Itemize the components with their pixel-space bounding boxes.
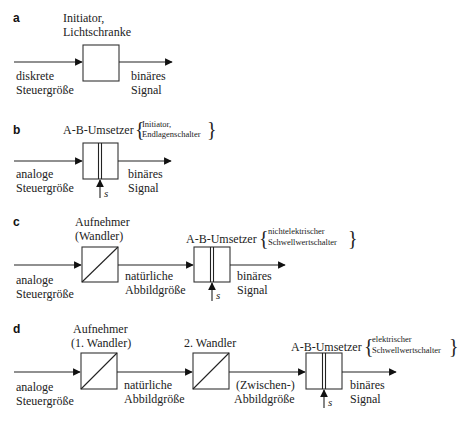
converter-label-d: A-B-Umsetzer [291, 340, 362, 354]
example-c-line1: nichtelektrischer [268, 226, 325, 236]
output-label-a-line2: Signal [131, 83, 162, 97]
panel-letter-d: d [13, 322, 20, 336]
output-label-a-line1: binäres [131, 69, 166, 83]
panel-c: c Aufnehmer (Wandler) A-B-Umsetzer { nic… [13, 215, 358, 301]
input-label-b-line1: analoge [16, 167, 53, 181]
panel-letter-a: a [13, 11, 20, 25]
input-label-b-line2: Steuergröße [16, 181, 74, 195]
input-label-c-line1: analoge [16, 273, 53, 287]
output-label-c-line1: binäres [237, 269, 272, 283]
sensor-label-d-line2: (1. Wandler) [71, 336, 131, 350]
output-label-b-line1: binäres [128, 167, 163, 181]
middle-label-c-line2: Abbildgröße [125, 283, 186, 297]
output-label-d-line2: Signal [350, 392, 381, 406]
input-label-d-line1: analoge [16, 380, 53, 394]
close-brace-c: } [348, 227, 358, 249]
close-brace-b: } [207, 118, 217, 140]
panel-b: b A-B-Umsetzer { Initiator, Endlagenscha… [13, 118, 217, 199]
close-brace-d: } [449, 335, 459, 357]
example-d-line2: Schwellwertschalter [372, 345, 441, 355]
second-converter-label-d: 2. Wandler [184, 336, 236, 350]
middle-label-d1-line1: natürliche [124, 378, 172, 392]
ab-converter-block-b [83, 143, 118, 179]
middle-label-c-line1: natürliche [125, 269, 173, 283]
panel-a: a Initiator, Lichtschranke diskrete Steu… [13, 11, 172, 97]
middle-label-d2-line2: Abbildgröße [234, 392, 295, 406]
block-label-a-line2: Lichtschranke [63, 25, 131, 39]
input-label-a-line1: diskrete [16, 69, 54, 83]
panel-letter-c: c [13, 215, 20, 229]
example-d-line1: elektrischer [372, 334, 412, 344]
output-label-c-line2: Signal [237, 283, 268, 297]
block-label-a-line1: Initiator, [63, 11, 104, 25]
input-label-a-line2: Steuergröße [16, 83, 74, 97]
input-label-d-line2: Steuergröße [16, 394, 74, 408]
middle-label-d1-line2: Abbildgröße [124, 392, 185, 406]
output-label-d-line1: binäres [350, 378, 385, 392]
sensor-label-c-line1: Aufnehmer [75, 215, 130, 229]
ab-converter-block-d [306, 353, 342, 389]
converter-label-c: A-B-Umsetzer [186, 232, 257, 246]
sensor-label-d-line1: Aufnehmer [73, 322, 128, 336]
initiator-block-a [83, 45, 119, 81]
example-b-line1: Initiator, [142, 119, 171, 129]
threshold-s-d: s [328, 396, 332, 408]
panel-d: d Aufnehmer (1. Wandler) 2. Wandler A-B-… [13, 322, 459, 408]
example-c-line2: Schwellwertschalter [268, 237, 337, 247]
panel-letter-b: b [13, 123, 20, 137]
converter-label-b: A-B-Umsetzer [63, 123, 134, 137]
sensor-label-c-line2: (Wandler) [75, 229, 123, 243]
input-label-c-line2: Steuergröße [16, 287, 74, 301]
example-b-line2: Endlagenschalter [142, 129, 201, 139]
signal-conversion-diagram: a Initiator, Lichtschranke diskrete Steu… [0, 0, 464, 422]
ab-converter-block-c [194, 247, 230, 282]
threshold-s-c: s [216, 289, 220, 301]
middle-label-d2-line1: (Zwischen-) [236, 378, 295, 392]
output-label-b-line2: Signal [128, 181, 159, 195]
threshold-s-b: s [104, 187, 108, 199]
